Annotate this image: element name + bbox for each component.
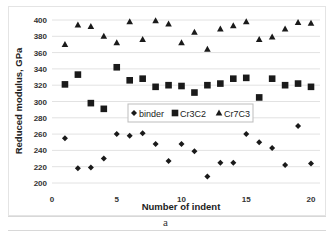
- y-tick-label: 280: [34, 114, 48, 123]
- data-point-square: [152, 84, 159, 91]
- data-point-diamond: [101, 156, 107, 162]
- data-point-square: [256, 94, 263, 101]
- data-point-square: [75, 71, 82, 78]
- data-point-diamond: [114, 131, 120, 137]
- data-point-square: [191, 89, 198, 96]
- data-point-triangle: [139, 36, 146, 42]
- data-point-square: [172, 110, 179, 117]
- data-point-square: [165, 82, 172, 89]
- data-point-diamond: [256, 139, 262, 145]
- data-point-diamond: [243, 131, 249, 137]
- data-point-triangle: [178, 39, 185, 45]
- data-point-diamond: [166, 158, 172, 164]
- data-point-diamond: [179, 141, 185, 147]
- legend-label: binder: [139, 109, 164, 119]
- scatter-plot: 200220240260280300320340360380400 051015…: [0, 0, 331, 232]
- data-point-triangle: [217, 25, 224, 31]
- y-tick-label: 400: [34, 16, 48, 25]
- data-point-triangle: [62, 41, 69, 47]
- data-point-triangle: [282, 25, 289, 31]
- y-tick-label: 240: [34, 146, 48, 155]
- x-axis-title: Number of indent: [142, 201, 221, 212]
- data-point-square: [178, 83, 185, 90]
- legend-label: Cr3C2: [180, 109, 206, 119]
- caption-divider-bottom: [8, 230, 326, 231]
- data-point-triangle: [113, 39, 120, 45]
- y-tick-label: 260: [34, 130, 48, 139]
- data-point-square: [217, 80, 224, 87]
- data-point-triangle: [204, 46, 211, 52]
- data-point-square: [308, 84, 315, 91]
- y-axis-ticks: 200220240260280300320340360380400: [34, 16, 48, 188]
- data-point-square: [139, 75, 146, 82]
- data-point-triangle: [126, 18, 133, 24]
- data-point-square: [230, 75, 237, 82]
- y-tick-label: 340: [34, 65, 48, 74]
- legend: binderCr3C2Cr7C3: [128, 104, 253, 122]
- data-point-diamond: [191, 148, 197, 154]
- data-point-square: [204, 82, 211, 89]
- data-point-triangle: [230, 22, 237, 28]
- data-point-square: [269, 75, 276, 82]
- x-tick-label: 0: [50, 195, 55, 204]
- y-tick-label: 320: [34, 81, 48, 90]
- data-point-square: [101, 106, 108, 113]
- data-points: [62, 17, 315, 179]
- data-point-triangle: [243, 18, 250, 24]
- y-tick-label: 380: [34, 32, 48, 41]
- data-point-diamond: [217, 160, 223, 166]
- x-tick-label: 15: [242, 195, 251, 204]
- y-tick-label: 300: [34, 98, 48, 107]
- data-point-triangle: [308, 20, 315, 26]
- x-tick-label: 5: [115, 195, 120, 204]
- data-point-diamond: [153, 141, 159, 147]
- data-point-triangle: [191, 29, 198, 35]
- data-point-triangle: [88, 23, 95, 29]
- x-tick-label: 20: [307, 195, 316, 204]
- data-point-square: [113, 64, 120, 71]
- data-point-triangle: [75, 21, 82, 27]
- y-tick-label: 360: [34, 49, 48, 58]
- data-point-diamond: [308, 160, 314, 166]
- data-point-diamond: [88, 165, 94, 171]
- data-point-diamond: [140, 130, 146, 136]
- data-point-square: [126, 77, 133, 84]
- data-point-diamond: [295, 123, 301, 129]
- figure-caption: a: [0, 216, 331, 228]
- data-point-triangle: [256, 36, 263, 42]
- y-tick-label: 220: [34, 163, 48, 172]
- y-axis-title: Reduced modulus, GPa: [13, 47, 24, 154]
- data-point-square: [295, 80, 302, 87]
- data-point-square: [243, 75, 250, 82]
- data-point-diamond: [62, 135, 68, 141]
- data-point-square: [62, 81, 69, 88]
- data-point-square: [88, 100, 95, 107]
- y-tick-label: 200: [34, 179, 48, 188]
- data-point-triangle: [165, 21, 172, 27]
- data-point-square: [282, 82, 289, 89]
- legend-label: Cr7C3: [224, 109, 250, 119]
- data-point-diamond: [230, 160, 236, 166]
- data-point-diamond: [204, 173, 210, 179]
